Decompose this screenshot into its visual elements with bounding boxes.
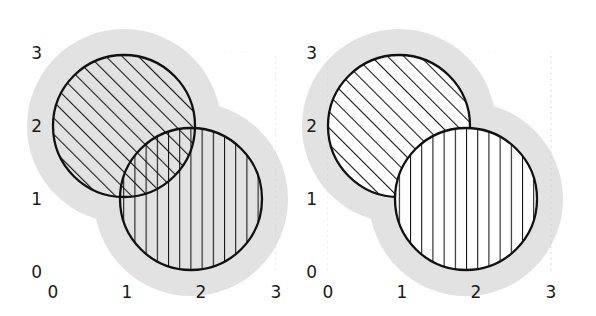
y-tick-2: 2: [31, 116, 42, 136]
right-panel: 3 2 1 0 0 1 2 3: [298, 0, 596, 316]
x-tick-1: 1: [122, 282, 133, 302]
left-panel: 3 2 1 0 0 1 2 3: [0, 0, 298, 316]
right-panel-plot: 3 2 1 0 0 1 2 3: [298, 0, 596, 316]
x-tick-0: 0: [323, 282, 334, 302]
y-tick-0: 0: [306, 262, 317, 282]
y-tick-2: 2: [306, 116, 317, 136]
y-tick-0: 0: [31, 262, 42, 282]
x-tick-3: 3: [271, 282, 282, 302]
x-tick-1: 1: [397, 282, 408, 302]
x-tick-3: 3: [546, 282, 557, 302]
left-panel-plot: 3 2 1 0 0 1 2 3: [0, 0, 298, 316]
y-tick-1: 1: [31, 189, 42, 209]
x-tick-2: 2: [196, 282, 207, 302]
y-tick-3: 3: [31, 43, 42, 63]
x-tick-0: 0: [48, 282, 59, 302]
figure-canvas: 3 2 1 0 0 1 2 3: [0, 0, 596, 316]
x-tick-2: 2: [471, 282, 482, 302]
y-tick-3: 3: [306, 43, 317, 63]
y-tick-1: 1: [306, 189, 317, 209]
vertical-hatched-circle: [395, 128, 537, 270]
vertical-hatched-circle: [120, 128, 262, 270]
